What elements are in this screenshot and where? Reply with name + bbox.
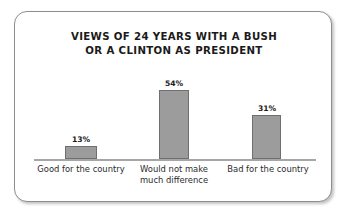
x-axis-line: [34, 159, 316, 161]
category-label-2-line-1: Would not make: [128, 164, 220, 175]
category-label-2-line-2: much difference: [128, 175, 220, 186]
category-label-3-line-1: Bad for the country: [220, 164, 316, 175]
category-label-1-line-1: Good for the country: [34, 164, 128, 175]
bar-would-not-make-much-difference: [159, 90, 189, 159]
category-label-bad-for-the-country: Bad for the country: [220, 164, 316, 175]
category-label-would-not-make-much-difference: Would not make much difference: [128, 164, 220, 186]
category-label-good-for-the-country: Good for the country: [34, 164, 128, 175]
bar-value-label-2: 54%: [138, 79, 210, 88]
chart-card-frame: VIEWS OF 24 YEARS WITH A BUSH OR A CLINT…: [14, 11, 332, 202]
plot-area: 13% Good for the country 54% Would not m…: [34, 12, 316, 203]
bar-good-for-the-country: [65, 146, 97, 159]
bar-value-label-1: 13%: [45, 135, 117, 144]
bar-value-label-3: 31%: [231, 104, 303, 113]
bar-bad-for-the-country: [252, 115, 281, 159]
chart-figure: VIEWS OF 24 YEARS WITH A BUSH OR A CLINT…: [0, 0, 349, 219]
